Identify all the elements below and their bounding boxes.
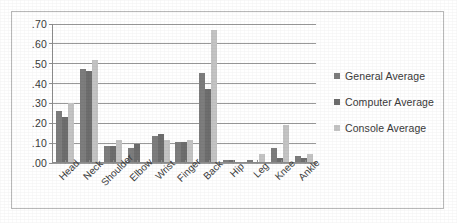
y-tick-label: .50	[32, 58, 47, 70]
legend-item[interactable]: Console Average	[334, 122, 444, 134]
x-label-slot: Wrist	[149, 164, 173, 208]
x-label-slot: Shoulder	[101, 164, 125, 208]
y-tick-label: .00	[32, 157, 47, 169]
y-tick-mark	[49, 63, 52, 64]
legend-label: General Average	[345, 70, 425, 82]
y-tick-label: .30	[32, 97, 47, 109]
legend-item[interactable]: Computer Average	[334, 96, 444, 108]
y-tick-label: .20	[32, 117, 47, 129]
bar-group	[268, 24, 292, 162]
chart-legend: General AverageComputer AverageConsole A…	[334, 70, 444, 148]
bar	[211, 30, 217, 162]
plot-area: .00.10.20.30.40.50.60.70	[52, 24, 316, 163]
bar	[283, 125, 289, 162]
chart-frame: .00.10.20.30.40.50.60.70 HeadNeckShoulde…	[11, 11, 444, 209]
y-tick-label: .70	[32, 18, 47, 30]
bar-group	[77, 24, 101, 162]
legend-swatch-icon	[334, 99, 340, 105]
y-tick-mark	[49, 103, 52, 104]
legend-item[interactable]: General Average	[334, 70, 444, 82]
legend-label: Console Average	[345, 122, 426, 134]
x-axis-label: Hip	[228, 161, 246, 179]
x-label-slot: Leg	[245, 164, 269, 208]
y-tick-label: .10	[32, 137, 47, 149]
bar	[92, 60, 98, 163]
bar-group	[125, 24, 149, 162]
y-tick-label: .40	[32, 78, 47, 90]
bar-group	[244, 24, 268, 162]
bar-group	[292, 24, 316, 162]
y-tick-label: .60	[32, 38, 47, 50]
x-label-slot: Knee	[269, 164, 293, 208]
legend-swatch-icon	[334, 73, 340, 79]
y-tick-mark	[49, 24, 52, 25]
bar	[247, 160, 253, 162]
x-label-slot: Back	[197, 164, 221, 208]
legend-swatch-icon	[334, 125, 340, 131]
legend-label: Computer Average	[345, 96, 434, 108]
y-tick-mark	[49, 123, 52, 124]
y-tick-mark	[49, 83, 52, 84]
bar	[68, 103, 74, 162]
y-tick-mark	[49, 143, 52, 144]
x-label-slot: Ankle	[293, 164, 317, 208]
x-axis-label: Leg	[251, 160, 271, 180]
bar-group	[53, 24, 77, 162]
y-tick-mark	[49, 43, 52, 44]
bar-group	[196, 24, 220, 162]
x-label-slot: Elbow	[125, 164, 149, 208]
x-axis-labels: HeadNeckShoulderElbowWristFingerBackHipL…	[53, 164, 317, 208]
bar-group	[101, 24, 125, 162]
y-tick-mark	[49, 163, 52, 164]
bar-group	[173, 24, 197, 162]
bar-group	[149, 24, 173, 162]
x-label-slot: Head	[53, 164, 77, 208]
x-label-slot: Neck	[77, 164, 101, 208]
x-label-slot: Finger	[173, 164, 197, 208]
bar-group	[220, 24, 244, 162]
bars-layer	[53, 24, 316, 162]
x-label-slot: Hip	[221, 164, 245, 208]
